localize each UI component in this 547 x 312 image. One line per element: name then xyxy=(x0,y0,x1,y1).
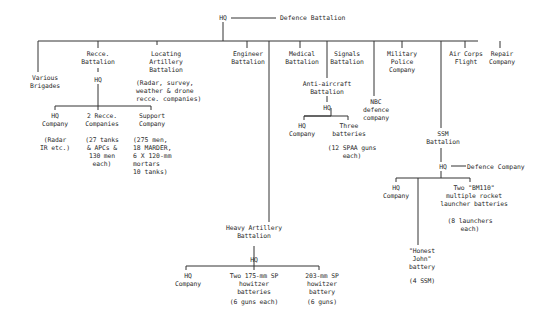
heavy-hq: HQ xyxy=(250,256,258,264)
aa-hq-company: HQ Company xyxy=(289,122,315,138)
support-company-note: (275 men, 18 MARDER, 6 X 120-mm mortars … xyxy=(133,136,171,176)
engineer-battalion: Engineer Battalion xyxy=(231,50,265,66)
ssm-hq-company: HQ Company xyxy=(383,184,409,200)
aa-hq: HQ xyxy=(323,104,331,112)
locating-artillery-battalion: Locating Artillery Battalion xyxy=(149,50,183,74)
recce-hq-company-note: (Radar IR etc.) xyxy=(40,136,70,152)
air-corps-flight: Air Corps Flight xyxy=(449,50,483,66)
bm110-note: (8 launchers each) xyxy=(448,217,493,233)
ssm-defence-company: Defence Company xyxy=(467,163,525,171)
heavy-203-battery: 203-mm SP howitzer battery xyxy=(305,272,339,296)
honest-john-note: (4 SSM) xyxy=(409,277,435,285)
support-company: Support Company xyxy=(139,112,165,128)
aa-batteries: Three batteries xyxy=(332,122,366,138)
heavy-203-note: (6 guns) xyxy=(307,298,337,306)
recce-battalion: Recce. Battalion xyxy=(81,50,115,66)
honest-john-battery: "Honest John" battery xyxy=(409,247,435,271)
recce-hq: HQ xyxy=(94,76,102,84)
aa-batteries-note: (12 SPAA guns each) xyxy=(328,144,377,160)
recce-companies-note: (27 tanks & APCs & 130 men each) xyxy=(85,136,119,168)
heavy-hq-company: HQ Company xyxy=(175,272,201,288)
locating-artillery-note: (Radar, survey, weather & drone recce. c… xyxy=(136,79,201,103)
ssm-hq: HQ xyxy=(439,163,447,171)
nbc-defence-company: NBC defence company xyxy=(363,98,389,122)
medical-battalion: Medical Battalion xyxy=(285,50,319,66)
defence-battalion: Defence Battalion xyxy=(280,14,345,22)
repair-company: Repair Company xyxy=(489,50,515,66)
bm110-batteries: Two "BM110" multiple rocket launcher bat… xyxy=(440,184,507,208)
anti-aircraft-battalion: Anti-aircraft Battalion xyxy=(303,80,352,96)
ssm-battalion: SSM Battalion xyxy=(426,130,460,146)
heavy-175-note: (6 guns each) xyxy=(230,298,279,306)
root-hq: HQ xyxy=(219,14,227,22)
signals-battalion: Signals Battalion xyxy=(330,50,364,66)
heavy-artillery-battalion: Heavy Artillery Battalion xyxy=(226,224,282,240)
various-brigades: Various Brigades xyxy=(30,74,60,90)
org-chart-connectors xyxy=(0,0,547,312)
heavy-175-batteries: Two 175-mm SP howitzer batteries xyxy=(230,272,279,296)
military-police-company: Military Police Company xyxy=(387,50,417,74)
recce-companies: 2 Recce. Companies xyxy=(85,112,119,128)
recce-hq-company: HQ Company xyxy=(42,112,68,128)
